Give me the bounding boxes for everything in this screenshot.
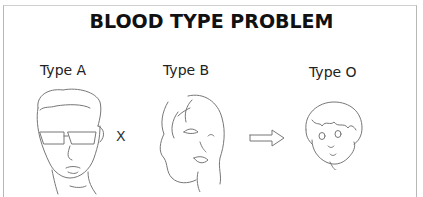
woman-face-icon [148,92,228,192]
diagram-title: BLOOD TYPE PROBLEM [0,10,423,32]
type-b-label: Type B [163,62,209,78]
man-with-sunglasses-face-icon [28,88,108,196]
type-o-label: Type O [309,64,357,80]
child-face-icon [300,100,364,170]
cross-operator: X [116,128,126,144]
type-a-label: Type A [40,62,86,78]
right-arrow-icon [248,128,288,148]
